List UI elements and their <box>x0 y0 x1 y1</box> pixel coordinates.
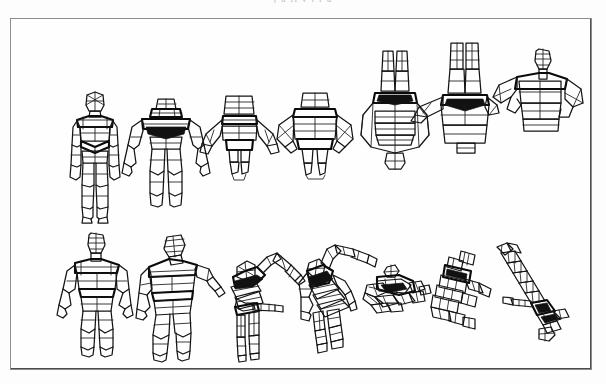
figure-page: j u ii v i i u <box>0 0 606 384</box>
pose-three-quarter-standing <box>57 233 133 357</box>
pose-top-down-lantern <box>361 51 429 169</box>
pose-leaning-forward <box>136 235 225 362</box>
pose-top-oblique-near <box>200 96 279 180</box>
pose-receding-diagonal <box>497 243 569 341</box>
pose-bent-over-reaching <box>231 253 305 362</box>
pose-top-oblique-wide <box>277 93 353 179</box>
pose-overhead-torso <box>493 49 583 131</box>
wireframe-pose-grid <box>11 19 593 371</box>
pose-front-upright <box>70 92 120 223</box>
pose-horizontal-compressed <box>363 265 431 313</box>
pose-front-tilted-down <box>122 99 210 207</box>
figure-frame-border <box>10 18 592 370</box>
wireframe-figure-canvas <box>11 19 593 371</box>
clipped-page-caption: j u ii v i i u <box>0 0 606 3</box>
pose-bent-over-steep <box>299 245 377 353</box>
pose-diagonal-collapsed <box>431 251 491 329</box>
pose-top-down-steep <box>411 43 499 153</box>
